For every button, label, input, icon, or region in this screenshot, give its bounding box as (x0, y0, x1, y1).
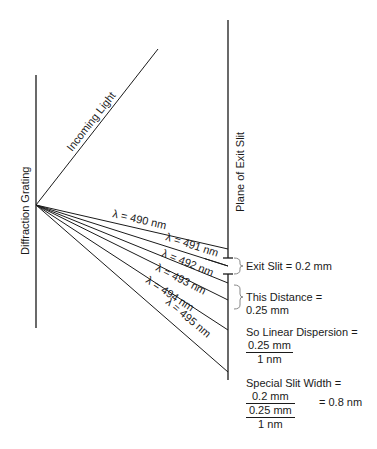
special-numerator: 0.2 mm (246, 390, 295, 404)
distance-bracket (234, 285, 243, 309)
special-denominator-numerator: 0.25 mm (246, 404, 295, 418)
special-slit-result: = 0.8 nm (319, 396, 362, 409)
special-denominator: 0.25 mm 1 nm (246, 404, 295, 431)
incoming-light-label: Incoming Light (64, 89, 118, 153)
dispersion-numerator: 0.25 mm (246, 339, 293, 353)
exit-plane-label: Plane of Exit Slit (234, 132, 246, 212)
ray-label-490: λ = 490 nm (112, 207, 168, 231)
distance-text-line1: This Distance = (246, 291, 322, 304)
special-denominator-denominator: 1 nm (246, 418, 295, 431)
dispersion-denominator: 1 nm (246, 353, 293, 366)
exit-slit-bracket (234, 258, 243, 274)
special-slit-fraction: 0.2 mm 0.25 mm 1 nm (246, 390, 295, 431)
dispersion-text: So Linear Dispersion = (246, 326, 358, 339)
special-slit-text: Special Slit Width = (246, 377, 341, 390)
grating-label: Diffraction Grating (19, 167, 31, 255)
dispersion-fraction: 0.25 mm 1 nm (246, 339, 293, 366)
exit-slit-text: Exit Slit = 0.2 mm (246, 260, 332, 273)
distance-text-line2: 0.25 mm (246, 304, 289, 317)
incoming-light-ray (36, 49, 158, 205)
